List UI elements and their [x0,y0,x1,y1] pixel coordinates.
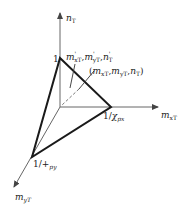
my-axis [14,107,60,187]
interaction-diagram: nT mxT myT 1 1/χpx 1/+py m'xT,m'yT,n'T (… [0,0,185,205]
n-intercept-label: 1 [53,54,59,64]
mx-axis-label: mxT [161,110,177,121]
my-axis-label: myT [15,192,32,204]
load-point-label: (mxT,myT,nT) [89,66,143,78]
my-intercept-label: 1/+py [33,159,57,171]
load-vector-dashed [61,89,79,106]
surface-point-label: m'xT,m'yT,n'T [66,50,112,64]
mx-intercept-label: 1/χpx [103,111,125,123]
n-axis-label: nT [66,13,76,24]
